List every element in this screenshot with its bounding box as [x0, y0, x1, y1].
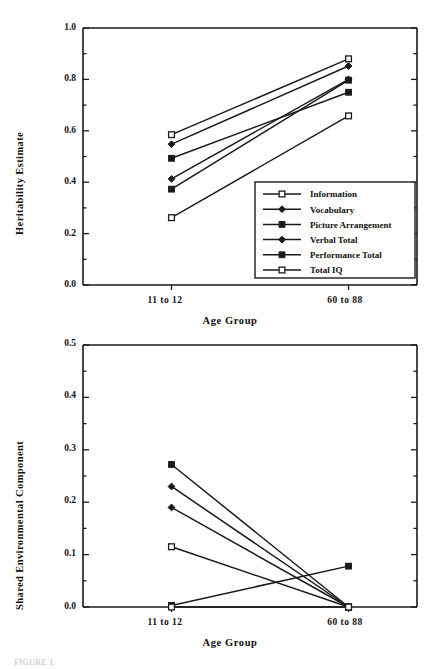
y-tick-label: 0.1	[38, 548, 76, 558]
data-point-1	[345, 63, 352, 70]
legend-label-5: Total IQ	[310, 265, 342, 275]
axis-frame	[83, 345, 417, 607]
open-square-marker	[169, 604, 175, 610]
data-point-5	[346, 113, 352, 119]
y-tick-label: 0.2	[38, 495, 76, 505]
x-tick-label: 60 to 88	[300, 295, 390, 305]
data-point-4	[346, 563, 352, 569]
y-axis-title-heritability: Heritability Estimate	[14, 132, 25, 235]
series-line-3	[172, 547, 349, 607]
series-line-3	[172, 79, 349, 178]
data-point-0	[169, 462, 175, 468]
open-square-marker	[169, 544, 175, 550]
open-square-marker	[169, 132, 175, 138]
data-point-3	[168, 175, 175, 182]
open-square-marker	[279, 267, 285, 273]
diamond-marker	[168, 141, 175, 148]
open-square-marker	[346, 56, 352, 62]
diamond-marker	[345, 63, 352, 70]
legend-marker-0	[279, 191, 285, 197]
data-point-1	[168, 141, 175, 148]
open-square-marker	[346, 113, 352, 119]
square-marker	[169, 155, 175, 161]
legend-label-3: Verbal Total	[310, 235, 358, 245]
series-line-2	[172, 92, 349, 158]
chart-panel-heritability: Heritability Estimate 1.0 0.8 0.6 0.4 0.…	[0, 0, 446, 335]
y-tick-label: 0.2	[38, 228, 76, 238]
x-tick-label: 11 to 12	[120, 295, 210, 305]
data-point-0	[346, 56, 352, 62]
square-marker	[346, 77, 352, 83]
figure-container: Heritability Estimate 1.0 0.8 0.6 0.4 0.…	[0, 0, 446, 669]
y-tick-label: 0.0	[38, 279, 76, 289]
data-point-0	[169, 132, 175, 138]
legend-marker-5	[279, 267, 285, 273]
legend-marker-4	[279, 252, 285, 258]
open-square-marker	[346, 604, 352, 610]
data-point-5	[346, 604, 352, 610]
open-square-marker	[279, 191, 285, 197]
figure-caption-fragment: FIGURE 1.	[14, 658, 56, 668]
axis-ticks-shared-environment	[83, 345, 417, 612]
y-tick-label: 1.0	[38, 22, 76, 32]
legend-marker-2	[279, 222, 285, 228]
x-axis-title-shared-environment: Age Group	[175, 637, 285, 648]
y-tick-label: 0.6	[38, 125, 76, 135]
square-marker	[346, 563, 352, 569]
y-tick-label: 0.3	[38, 443, 76, 453]
square-marker	[169, 186, 175, 192]
x-tick-label: 60 to 88	[300, 617, 390, 627]
open-square-marker	[169, 215, 175, 221]
series-line-2	[172, 507, 349, 607]
diamond-marker	[168, 175, 175, 182]
square-marker	[169, 462, 175, 468]
y-tick-label: 0.5	[38, 338, 76, 348]
plot-area-shared-environment	[0, 330, 446, 640]
legend-label-4: Performance Total	[310, 250, 382, 260]
square-marker	[279, 252, 285, 258]
square-marker	[279, 222, 285, 228]
x-axis-title-heritability: Age Group	[175, 315, 285, 326]
data-point-5	[169, 215, 175, 221]
series-lines-shared-environment	[172, 464, 349, 607]
data-point-2	[169, 155, 175, 161]
legend-label-2: Picture Arrangement	[310, 220, 392, 230]
square-marker	[346, 89, 352, 95]
data-point-5	[169, 604, 175, 610]
data-point-3	[169, 544, 175, 550]
series-line-1	[172, 66, 349, 144]
legend-label-1: Vocabulary	[310, 205, 355, 215]
chart-legend: InformationVocabularyPicture Arrangement…	[255, 182, 415, 278]
y-axis-title-shared-environment: Shared Environmental Component	[14, 441, 25, 610]
data-point-4	[169, 186, 175, 192]
data-point-2	[346, 89, 352, 95]
series-line-1	[172, 486, 349, 607]
legend-label-0: Information	[310, 189, 357, 199]
diamond-marker	[168, 504, 175, 511]
data-point-2	[168, 504, 175, 511]
y-tick-label: 0.4	[38, 176, 76, 186]
y-tick-label: 0.0	[38, 601, 76, 611]
y-tick-label: 0.8	[38, 73, 76, 83]
x-tick-label: 11 to 12	[120, 617, 210, 627]
data-point-4	[346, 77, 352, 83]
chart-panel-shared-environment: Shared Environmental Component 0.5 0.4 0…	[0, 330, 446, 640]
y-tick-label: 0.4	[38, 390, 76, 400]
